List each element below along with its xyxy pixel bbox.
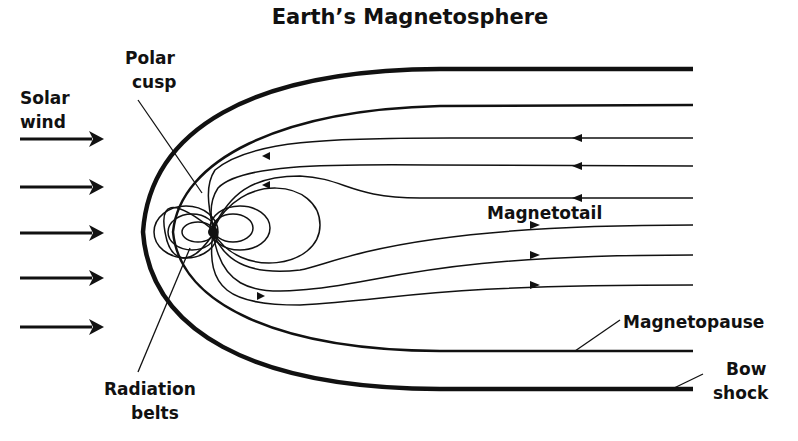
label-bow-shock-line1: Bow bbox=[726, 359, 767, 379]
label-bow-shock-line2: shock bbox=[713, 383, 769, 403]
bow-shock-curve bbox=[143, 69, 693, 389]
label-polar-cusp-line1: Polar bbox=[125, 48, 175, 68]
magnetotail-field-lines bbox=[208, 138, 693, 305]
label-radiation-belts-line1: Radiation bbox=[104, 379, 196, 399]
diagram-title: Earth’s Magnetosphere bbox=[272, 5, 549, 29]
label-magnetopause: Magnetopause bbox=[623, 312, 764, 332]
label-polar-cusp-line2: cusp bbox=[132, 72, 176, 92]
label-solar-wind-line2: wind bbox=[20, 112, 66, 132]
label-radiation-belts-line2: belts bbox=[131, 403, 179, 423]
label-solar-wind-line1: Solar bbox=[20, 88, 70, 108]
magnetopause-curve bbox=[173, 105, 693, 351]
earth bbox=[208, 227, 218, 237]
solar-wind-arrows bbox=[20, 139, 92, 327]
magnetosphere-diagram: Earth’s Magnetosphere bbox=[0, 0, 798, 441]
label-magnetotail: Magnetotail bbox=[487, 203, 602, 223]
